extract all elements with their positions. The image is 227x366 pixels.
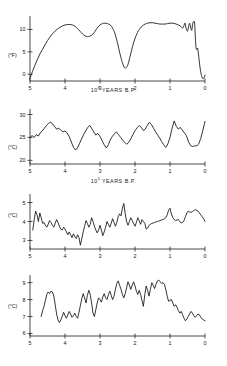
panel-1-trace	[30, 21, 205, 79]
x-tick-label: 5	[29, 340, 32, 346]
panel-3-xticks: 543210	[29, 247, 207, 260]
panel-1-ylabel: (°F)	[8, 52, 17, 58]
panel-1: 0510 543210 (°F) 106 YEARS B.P.	[0, 0, 227, 92]
panel-4-plot: 6789 543210 (°C)	[0, 272, 227, 348]
y-tick-label: 5	[23, 49, 26, 55]
x-tick-label: 5	[29, 168, 32, 174]
x-tick-label: 2	[134, 168, 137, 174]
x-tick-label: 3	[99, 340, 102, 346]
y-tick-label: 3	[23, 237, 26, 243]
y-tick-label: 25	[20, 134, 26, 140]
panel-2-xlabel-suffix: YEARS B.P.	[100, 178, 136, 184]
panel-4: 6789 543210 (°C) MINUTES	[0, 272, 227, 348]
x-tick-label: 4	[64, 253, 67, 259]
panel-1-yticks: 0510	[20, 26, 33, 77]
x-tick-label: 5	[29, 253, 32, 259]
panel-2-plot: 202530 543210 (°C)	[0, 103, 227, 175]
climate-spectrum-figure: 0510 543210 (°F) 106 YEARS B.P. 202530 5…	[0, 0, 227, 366]
panel-3-trace	[33, 203, 205, 245]
y-tick-label: 9	[23, 280, 26, 286]
y-tick-label: 4	[23, 219, 26, 225]
panel-4-axes	[30, 275, 205, 336]
panel-4-ylabel: (°C)	[8, 303, 18, 309]
x-tick-label: 0	[204, 340, 207, 346]
panel-2-ylabel: (°C)	[8, 144, 18, 150]
y-tick-label: 0	[23, 71, 26, 77]
x-tick-label: 2	[134, 340, 137, 346]
panel-3-yticks: 345	[23, 200, 33, 244]
x-tick-label: 0	[204, 253, 207, 259]
panel-2: 202530 543210 (°C) 105 YEARS B.P.	[0, 103, 227, 175]
panel-3-ylabel: (°C)	[8, 212, 18, 218]
x-tick-label: 3	[99, 168, 102, 174]
x-tick-label: 0	[204, 168, 207, 174]
panel-2-axes	[30, 109, 205, 164]
x-tick-label: 4	[64, 340, 67, 346]
y-tick-label: 8	[23, 297, 26, 303]
y-tick-label: 6	[23, 330, 26, 336]
x-tick-label: 1	[169, 168, 172, 174]
y-tick-label: 7	[23, 314, 26, 320]
panel-2-trace	[30, 121, 205, 150]
panel-1-xlabel-prefix: 10	[91, 87, 98, 93]
x-tick-label: 4	[64, 168, 67, 174]
panel-1-axes	[30, 16, 205, 81]
y-tick-label: 20	[20, 157, 26, 163]
panel-4-xticks: 543210	[29, 334, 207, 347]
y-tick-label: 10	[20, 26, 26, 32]
panel-3-plot: 345 543210 (°C)	[0, 190, 227, 260]
y-tick-label: 30	[20, 112, 26, 118]
panel-1-xlabel: 106 YEARS B.P.	[0, 85, 227, 93]
panel-2-xticks: 543210	[29, 162, 207, 175]
panel-2-xlabel: 105 YEARS B.P.	[0, 176, 227, 184]
panel-2-xlabel-prefix: 10	[91, 178, 98, 184]
x-tick-label: 2	[134, 253, 137, 259]
panel-1-xlabel-suffix: YEARS B.P.	[100, 87, 136, 93]
panel-1-plot: 0510 543210 (°F)	[0, 0, 227, 92]
panel-3: 345 543210 (°C) 103 YEARS B.P.	[0, 190, 227, 260]
y-tick-label: 5	[23, 200, 26, 206]
x-tick-label: 3	[99, 253, 102, 259]
x-tick-label: 1	[169, 253, 172, 259]
panel-4-trace	[41, 280, 205, 322]
x-tick-label: 1	[169, 340, 172, 346]
panel-4-yticks: 6789	[23, 280, 33, 337]
